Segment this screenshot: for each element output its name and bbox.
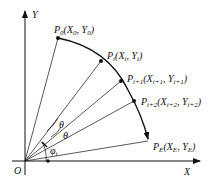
label-pi: Pi(Xi, Yi) — [107, 51, 142, 63]
x-axis-label: X — [184, 167, 190, 177]
origin-label: O — [14, 166, 21, 176]
point-pi1 — [119, 79, 123, 83]
radius-pi1 — [25, 81, 121, 161]
diagram-canvas — [0, 0, 214, 184]
label-p0: P0(X0, Y0) — [54, 25, 94, 37]
theta-label-2: θ — [63, 131, 68, 141]
point-pi2 — [132, 99, 136, 103]
label-pe: PE(XE, YE) — [153, 142, 195, 154]
theta-label-1: θ — [59, 120, 64, 130]
phi-label: φi — [50, 146, 58, 158]
arc-interpolation-diagram: Y X O P0(X0, Y0) Pi(Xi, Yi) Pi+1(Xi+1, Y… — [0, 0, 214, 184]
radius-pi — [25, 61, 101, 161]
point-pi — [99, 59, 103, 63]
label-pi1: Pi+1(Xi+1, Yi+1) — [127, 74, 187, 86]
point-x-axis — [46, 159, 50, 163]
label-pi2: Pi+2(Xi+2, Yi+2) — [141, 97, 201, 109]
y-axis-label: Y — [32, 10, 38, 20]
